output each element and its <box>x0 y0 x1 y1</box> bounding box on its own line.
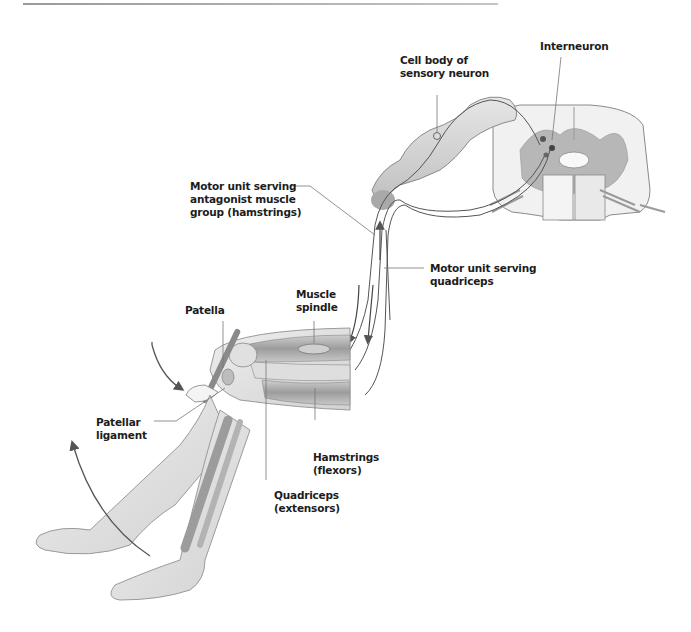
label-cell-body-sensory-neuron: Cell body of sensory neuron <box>400 54 489 80</box>
impulse-arrows <box>350 225 380 340</box>
label-interneuron: Interneuron <box>540 40 608 53</box>
label-hamstrings: Hamstrings (flexors) <box>313 451 379 477</box>
label-patellar-ligament: Patellar ligament <box>96 416 147 442</box>
femur <box>250 362 350 381</box>
label-quadriceps: Quadriceps (extensors) <box>274 489 340 515</box>
muscle-spindle <box>298 344 330 354</box>
reflex-arc-illustration <box>0 0 691 632</box>
patella-bone <box>222 369 234 385</box>
hammer-swing-arrow <box>152 345 180 388</box>
label-motor-unit-quadriceps: Motor unit serving quadriceps <box>430 262 536 288</box>
sensory-cell-body <box>434 133 441 140</box>
label-patella: Patella <box>185 304 225 317</box>
label-muscle-spindle: Muscle spindle <box>296 288 338 314</box>
spinal-cord <box>490 105 665 220</box>
label-motor-unit-antagonist: Motor unit serving antagonist muscle gro… <box>190 180 301 219</box>
